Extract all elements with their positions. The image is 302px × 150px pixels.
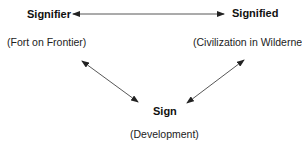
signifier-example: (Fort on Frontier) xyxy=(7,37,86,48)
edge-signified-sign xyxy=(187,60,244,103)
sign-term: Sign xyxy=(153,106,177,117)
signifier-term: Signifier xyxy=(27,9,71,20)
signified-example: (Civilization in Wilderness) xyxy=(193,37,302,48)
bidirectional-arrow-icon xyxy=(187,60,244,103)
signified-term: Signified xyxy=(232,8,278,19)
semiotic-triangle-diagram: Signifier (Fort on Frontier) Signified (… xyxy=(0,0,302,150)
edge-signifier-sign xyxy=(82,61,138,102)
bidirectional-arrow-icon xyxy=(82,61,138,102)
sign-example: (Development) xyxy=(130,129,199,140)
